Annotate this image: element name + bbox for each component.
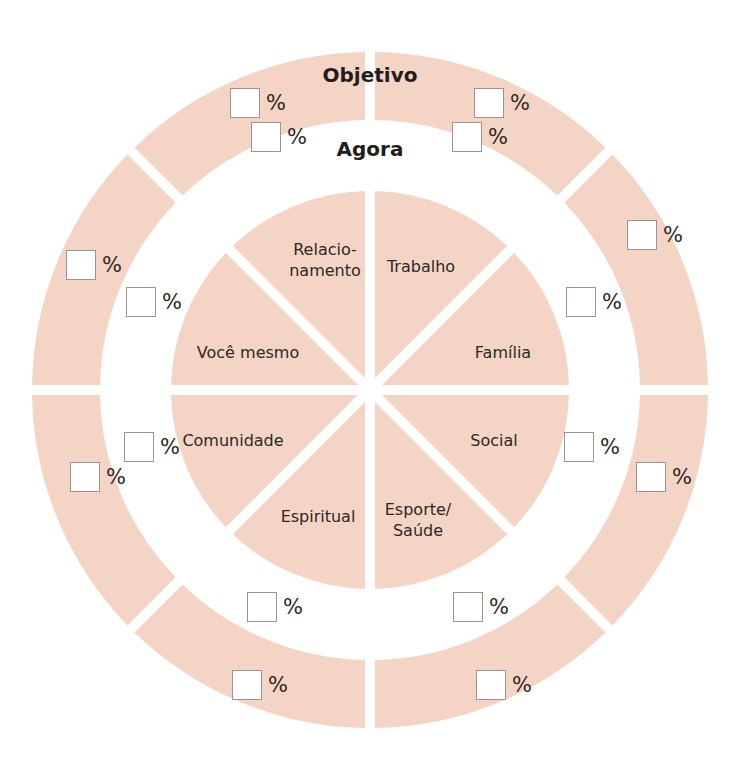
percent-sign: %: [162, 290, 182, 314]
life-wheel-diagram: [0, 0, 741, 771]
percent-sign: %: [283, 595, 303, 619]
percent-sign: %: [106, 465, 126, 489]
agora-percent-input[interactable]: [124, 432, 154, 462]
agora-percent-field: %: [247, 592, 303, 622]
segment-label: Você mesmo: [197, 342, 299, 363]
objetivo-percent-input[interactable]: [476, 670, 506, 700]
objetivo-title: Objetivo: [323, 63, 418, 87]
agora-pie: [171, 191, 569, 589]
agora-percent-input[interactable]: [566, 287, 596, 317]
agora-percent-field: %: [251, 122, 307, 152]
objetivo-percent-input[interactable]: [627, 220, 657, 250]
percent-sign: %: [268, 673, 288, 697]
segment-label: Espiritual: [281, 506, 356, 527]
objetivo-percent-field: %: [232, 670, 288, 700]
agora-percent-field: %: [452, 122, 508, 152]
percent-sign: %: [488, 125, 508, 149]
segment-label: Relacio- namento: [289, 239, 361, 281]
objetivo-percent-input[interactable]: [636, 462, 666, 492]
objetivo-percent-field: %: [70, 462, 126, 492]
agora-percent-field: %: [566, 287, 622, 317]
objetivo-percent-input[interactable]: [230, 88, 260, 118]
objetivo-percent-input[interactable]: [66, 250, 96, 280]
objetivo-segment: [564, 155, 708, 385]
objetivo-segment: [32, 395, 176, 625]
percent-sign: %: [266, 91, 286, 115]
agora-percent-input[interactable]: [247, 592, 277, 622]
objetivo-percent-field: %: [636, 462, 692, 492]
objetivo-percent-field: %: [474, 88, 530, 118]
objetivo-percent-field: %: [66, 250, 122, 280]
objetivo-percent-input[interactable]: [232, 670, 262, 700]
percent-sign: %: [602, 290, 622, 314]
segment-label: Esporte/ Saúde: [385, 499, 451, 541]
objetivo-percent-input[interactable]: [474, 88, 504, 118]
agora-percent-field: %: [124, 432, 180, 462]
agora-percent-field: %: [564, 432, 620, 462]
percent-sign: %: [512, 673, 532, 697]
segment-label: Comunidade: [182, 430, 283, 451]
agora-percent-input[interactable]: [251, 122, 281, 152]
objetivo-percent-field: %: [627, 220, 683, 250]
agora-percent-input[interactable]: [564, 432, 594, 462]
objetivo-segment: [564, 395, 708, 625]
percent-sign: %: [672, 465, 692, 489]
objetivo-percent-input[interactable]: [70, 462, 100, 492]
agora-percent-field: %: [453, 592, 509, 622]
objetivo-percent-field: %: [476, 670, 532, 700]
segment-label: Social: [470, 430, 517, 451]
percent-sign: %: [287, 125, 307, 149]
percent-sign: %: [510, 91, 530, 115]
agora-percent-field: %: [126, 287, 182, 317]
percent-sign: %: [663, 223, 683, 247]
agora-percent-input[interactable]: [452, 122, 482, 152]
segment-label: Família: [475, 342, 531, 363]
objetivo-percent-field: %: [230, 88, 286, 118]
agora-percent-input[interactable]: [126, 287, 156, 317]
agora-percent-input[interactable]: [453, 592, 483, 622]
agora-title: Agora: [337, 137, 404, 161]
percent-sign: %: [160, 435, 180, 459]
percent-sign: %: [102, 253, 122, 277]
segment-label: Trabalho: [387, 256, 455, 277]
percent-sign: %: [600, 435, 620, 459]
percent-sign: %: [489, 595, 509, 619]
